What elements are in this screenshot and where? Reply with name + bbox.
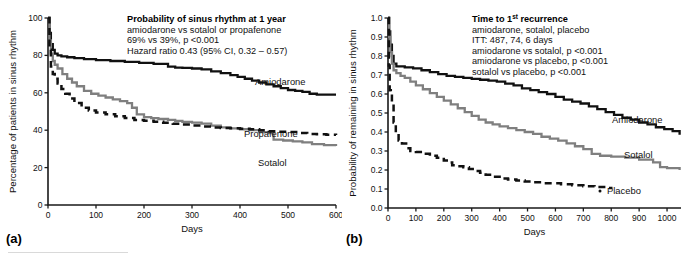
- x-tick-label: 800: [604, 213, 618, 223]
- curve-label-sotalol: Sotalol: [258, 157, 287, 168]
- panel-tag: (a): [6, 231, 22, 246]
- x-tick-label: 0: [46, 210, 51, 220]
- x-tick-label: 600: [329, 210, 342, 220]
- x-tick-label: 300: [185, 210, 199, 220]
- y-tick-label: 80: [33, 50, 43, 60]
- annotation-title: Time to 1st recurrence: [472, 13, 568, 24]
- panel-tag: (b): [346, 231, 363, 246]
- x-tick-label: 500: [281, 210, 295, 220]
- panel-b: 0.00.10.20.30.40.50.60.70.80.91.00100200…: [342, 0, 684, 255]
- y-tick-label: 40: [33, 125, 43, 135]
- x-tick-label: 500: [520, 213, 534, 223]
- annotation-line: sotalol vs placebo, p <0.001: [472, 67, 586, 77]
- y-tick-label: 0.9: [371, 32, 383, 42]
- curve-label-placebo: Placebo: [607, 185, 641, 196]
- x-axis-title: Days: [181, 223, 203, 234]
- y-tick-label: 0.2: [371, 165, 383, 175]
- x-tick-label: 900: [632, 213, 646, 223]
- y-tick-label: 0.7: [371, 70, 383, 80]
- x-tick-label: 1000: [658, 213, 677, 223]
- y-tick-label: 0: [38, 200, 43, 210]
- y-tick-label: 1.0: [371, 13, 383, 23]
- x-tick-label: 700: [576, 213, 590, 223]
- figure-kaplan-meier: 0204060801000100200300400500600 DaysPerc…: [0, 0, 684, 255]
- y-tick-label: 0.0: [371, 203, 383, 213]
- annotation-line: ITT: 487, 74, 6 days: [472, 35, 553, 45]
- panel-a-plot: 0204060801000100200300400500600 DaysPerc…: [0, 0, 342, 255]
- y-tick-label: 0.3: [371, 146, 383, 156]
- annotation-line: amiodarone vs sotalol, p <0.001: [472, 46, 603, 56]
- curve-label-amiodarone: Amiodarone: [612, 114, 663, 125]
- x-tick-label: 100: [89, 210, 103, 220]
- panel-a: 0204060801000100200300400500600 DaysPerc…: [0, 0, 342, 255]
- annotation-title: Probability of sinus rhythm at 1 year: [127, 14, 286, 24]
- y-tick-label: 0.4: [371, 127, 383, 137]
- x-tick-label: 300: [465, 213, 479, 223]
- x-tick-label: 0: [386, 213, 391, 223]
- y-tick-label: 100: [28, 13, 42, 23]
- x-tick-label: 400: [233, 210, 247, 220]
- x-tick-label: 200: [137, 210, 151, 220]
- y-tick-label: 0.6: [371, 89, 383, 99]
- placebo-marker-dot: [599, 190, 602, 193]
- annotation-line: Hazard ratio 0.43 (95% CI, 0.32 – 0.57): [127, 46, 287, 56]
- annotation-line: amiodarone vs sotalol or propafenone: [127, 25, 281, 35]
- y-axis-title: Probability of remaining in sinus rhythm: [347, 29, 358, 196]
- curve-label-sotalol: Sotalol: [624, 149, 653, 160]
- annotation-line: 69% vs 39%, p <0.001: [127, 35, 219, 45]
- curve-label-propafenone: Propafenone: [244, 128, 298, 139]
- x-tick-label: 600: [548, 213, 562, 223]
- curve-label-amiodarone: Amiodarone: [255, 76, 306, 87]
- x-tick-label: 100: [409, 213, 423, 223]
- panel-b-text: DaysProbability of remaining in sinus rh…: [346, 13, 663, 246]
- panel-b-plot: 0.00.10.20.30.40.50.60.70.80.91.00100200…: [342, 0, 684, 255]
- y-tick-label: 0.8: [371, 51, 383, 61]
- annotation-line: amiodarone, sotalol, placebo: [472, 25, 589, 35]
- y-tick-label: 60: [33, 88, 43, 98]
- annotation-line: amiodarone vs placebo, p <0.001: [472, 56, 608, 66]
- y-tick-label: 20: [33, 163, 43, 173]
- y-axis-title: Percentage of patients in sinus rhythm: [7, 30, 18, 193]
- x-tick-label: 400: [493, 213, 507, 223]
- x-axis-title: Days: [524, 226, 546, 237]
- page-edge-artifact: [8, 252, 128, 253]
- x-tick-label: 200: [437, 213, 451, 223]
- y-tick-label: 0.1: [371, 184, 383, 194]
- y-tick-label: 0.5: [371, 108, 383, 118]
